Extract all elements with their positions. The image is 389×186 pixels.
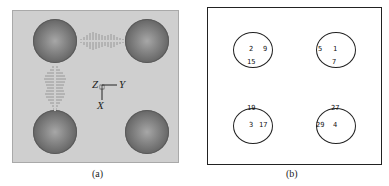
axis-label-z: Z	[92, 78, 98, 90]
label: 15	[247, 59, 255, 66]
label: 7	[332, 59, 336, 66]
label: 4	[333, 122, 337, 129]
caption-a: (a)	[92, 168, 103, 179]
sphere-top-left	[33, 19, 77, 63]
horizontal-wave-pattern	[79, 27, 125, 55]
label: 27	[331, 105, 339, 112]
axis-label-x: X	[97, 99, 104, 111]
label: 3	[249, 122, 253, 129]
sphere-bottom-left	[33, 110, 77, 154]
label: 1	[333, 46, 337, 53]
label: 5	[318, 46, 322, 53]
label: 17	[259, 122, 267, 129]
label: 29	[316, 122, 324, 129]
panel-a-render: Z Y X	[12, 10, 179, 163]
label: 19	[247, 105, 255, 112]
label: 2	[249, 46, 253, 53]
vertical-wave-pattern	[41, 65, 69, 111]
axis-label-y: Y	[119, 78, 125, 90]
caption-b: (b)	[286, 168, 298, 179]
sphere-top-right	[125, 19, 169, 63]
label: 9	[263, 46, 267, 53]
panel-b-schematic: 2 9 15 5 1 7 19 3 17 27 29 4	[207, 7, 382, 165]
sphere-bottom-right	[125, 110, 169, 154]
